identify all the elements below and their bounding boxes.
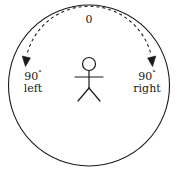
angle-label-right-direction: right: [124, 83, 170, 95]
degree-symbol-icon: °: [38, 69, 42, 77]
angle-label-left-value: 90: [24, 70, 38, 83]
stick-figure-leg-left: [78, 88, 89, 101]
degree-symbol-icon: °: [152, 69, 156, 77]
head-direction-diagram: 0 90° left 90° right: [0, 0, 178, 171]
arrow-head-left: [22, 56, 30, 67]
angle-label-left-degrees: 90°: [10, 70, 56, 82]
stick-figure: [75, 58, 103, 102]
angle-label-right-degrees: 90°: [124, 70, 170, 82]
angle-label-zero: 0: [0, 14, 178, 26]
angle-label-right: 90° right: [124, 70, 170, 95]
stick-figure-head-icon: [83, 58, 96, 71]
angle-label-left-direction: left: [10, 83, 56, 95]
arrow-head-right: [148, 56, 156, 67]
angle-label-left: 90° left: [10, 70, 56, 95]
angle-label-right-value: 90: [138, 70, 152, 83]
stick-figure-leg-right: [89, 88, 100, 101]
